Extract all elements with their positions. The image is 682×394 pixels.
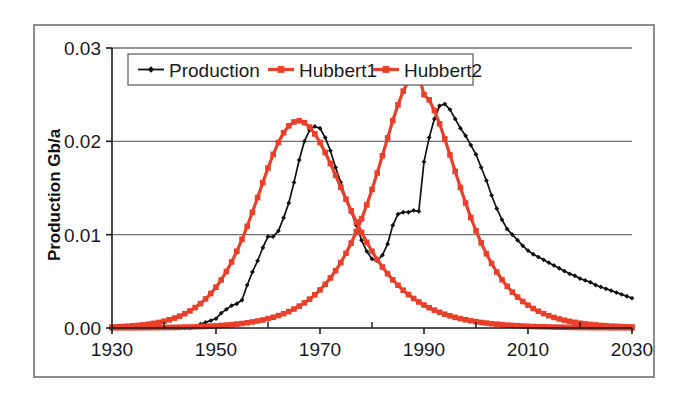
data-point	[338, 260, 344, 266]
data-point	[374, 170, 380, 176]
data-point	[302, 300, 308, 306]
data-point	[322, 150, 328, 156]
axes-group	[106, 48, 632, 334]
data-point	[484, 178, 489, 183]
data-point	[437, 103, 442, 108]
data-point	[255, 195, 261, 201]
y-tick-label-0.03: 0.03	[64, 38, 101, 59]
data-point	[328, 275, 334, 281]
x-tick-label-1930: 1930	[91, 339, 133, 360]
data-point	[437, 310, 443, 316]
legend-label: Production	[169, 60, 260, 81]
y-tick-label-0.02: 0.02	[64, 131, 101, 152]
data-point	[458, 316, 464, 322]
data-point	[166, 317, 172, 323]
legend-label: Hubbert1	[299, 60, 377, 81]
data-point	[338, 184, 344, 190]
data-point	[510, 289, 516, 295]
data-point	[609, 288, 614, 293]
data-point	[385, 271, 391, 277]
data-point	[484, 251, 490, 257]
data-point	[260, 180, 266, 186]
data-point	[260, 317, 266, 323]
data-point	[624, 294, 629, 299]
data-point	[369, 248, 375, 254]
data-point	[494, 269, 500, 275]
data-point	[504, 322, 510, 328]
data-point	[177, 313, 183, 319]
data-point	[582, 321, 588, 327]
data-point	[567, 319, 573, 325]
data-point	[390, 118, 396, 124]
data-point	[426, 97, 432, 103]
data-point	[426, 305, 432, 311]
series-group	[109, 72, 635, 330]
data-point	[328, 148, 333, 153]
data-point	[630, 296, 635, 301]
data-point	[286, 123, 292, 129]
data-point	[504, 283, 510, 289]
data-point	[296, 118, 302, 124]
data-point	[348, 240, 354, 246]
data-point	[421, 92, 427, 98]
data-point	[333, 173, 339, 179]
data-point	[276, 313, 282, 319]
data-point	[489, 193, 494, 198]
data-point	[416, 299, 422, 305]
data-point	[307, 296, 313, 302]
data-point	[281, 130, 287, 136]
data-point	[187, 324, 193, 330]
data-point	[489, 261, 495, 267]
data-point	[499, 322, 505, 328]
data-point	[437, 121, 443, 127]
data-point	[406, 210, 411, 215]
data-point	[296, 303, 302, 309]
data-point	[452, 169, 458, 175]
y-axis-title: Production Gb/a	[45, 128, 64, 261]
data-point	[421, 302, 427, 308]
data-point	[447, 152, 453, 158]
data-point	[478, 240, 484, 246]
data-point	[442, 136, 448, 142]
data-point	[291, 119, 297, 125]
data-point	[270, 314, 276, 320]
data-point	[468, 215, 474, 221]
data-point	[395, 282, 401, 288]
data-point	[208, 291, 214, 297]
data-point	[198, 301, 204, 307]
data-point	[244, 320, 250, 326]
data-point	[187, 308, 193, 314]
data-point	[182, 311, 188, 317]
data-point	[463, 200, 469, 206]
data-point	[520, 299, 526, 305]
data-point	[255, 318, 261, 324]
series-hubbert2	[109, 72, 635, 330]
data-point	[556, 324, 562, 330]
data-point	[530, 306, 536, 312]
data-point	[442, 311, 448, 317]
data-point	[270, 152, 276, 158]
data-point	[343, 251, 349, 257]
data-point	[484, 320, 490, 326]
data-point	[208, 318, 213, 323]
data-point	[619, 292, 624, 297]
data-point	[588, 322, 594, 328]
data-point	[369, 187, 375, 193]
data-point	[265, 165, 271, 171]
data-point	[551, 315, 557, 321]
data-point	[244, 223, 250, 229]
data-point	[364, 240, 370, 246]
production-hubbert-chart: 0.000.010.020.03193019501970199020102030…	[0, 0, 682, 394]
data-point	[536, 308, 542, 314]
data-point	[385, 135, 391, 141]
data-point	[172, 315, 178, 321]
data-point	[546, 313, 552, 319]
data-point	[156, 320, 162, 326]
data-point	[432, 108, 438, 114]
x-tick-label-1990: 1990	[403, 339, 445, 360]
data-point	[322, 282, 328, 288]
series-line-hubbert2	[112, 75, 632, 328]
data-point	[239, 237, 245, 243]
data-point	[343, 196, 349, 202]
data-point	[302, 120, 308, 126]
